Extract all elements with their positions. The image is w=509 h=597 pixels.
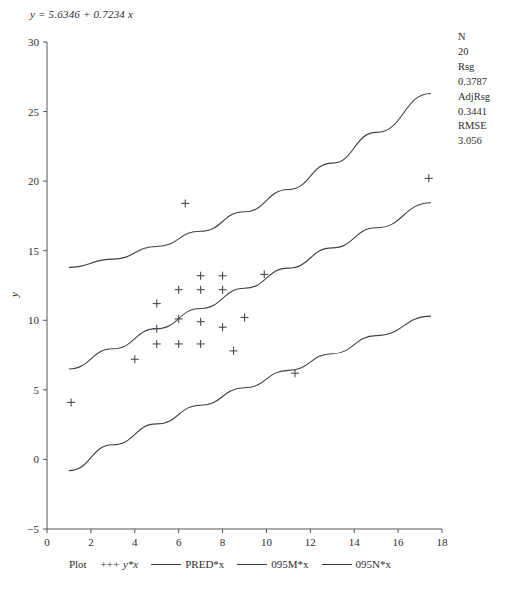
y-tick-label: 0	[34, 453, 40, 465]
x-tick-label: 10	[261, 536, 273, 548]
curve-095N-x	[69, 316, 431, 471]
x-tick-label: 8	[220, 536, 226, 548]
data-point-plus-icon	[219, 323, 227, 331]
curve-095M-x	[69, 94, 431, 268]
legend-plot-label: Plot	[69, 558, 87, 570]
data-point-plus-icon	[219, 286, 227, 294]
legend-pred-label: PRED*x	[185, 558, 224, 570]
data-point-plus-icon	[197, 340, 205, 348]
x-tick-label: 2	[88, 536, 94, 548]
legend-item-observed: +++ y*x	[100, 558, 139, 570]
y-tick-label: 20	[28, 175, 40, 187]
data-point-plus-icon	[175, 286, 183, 294]
data-point-plus-icon	[131, 355, 139, 363]
axes: −5051015202530024681012141618	[27, 36, 448, 548]
regression-chart: y = 5.6346 + 0.7234 x N 20 Rsg 0.3787 Ad…	[0, 0, 509, 597]
data-point-plus-icon	[181, 199, 189, 207]
data-point-plus-icon	[153, 300, 161, 308]
data-point-plus-icon	[197, 318, 205, 326]
fit-curves	[69, 94, 431, 471]
y-tick-label: 15	[28, 245, 40, 257]
legend-plot-text: Plot	[69, 558, 87, 570]
legend-upper-label: 095M*x	[271, 558, 308, 570]
data-points	[67, 174, 433, 406]
y-tick-label: 5	[34, 384, 40, 396]
data-point-plus-icon	[197, 272, 205, 280]
data-point-plus-icon	[425, 174, 433, 182]
line-swatch-icon	[237, 564, 267, 565]
x-tick-label: 14	[349, 536, 361, 548]
line-swatch-icon	[151, 564, 181, 565]
y-tick-label: 10	[28, 314, 40, 326]
legend-item-lower: 095N*x	[322, 558, 391, 570]
curve-PRED-x	[69, 203, 431, 369]
legend-item-pred: PRED*x	[151, 558, 224, 570]
x-tick-label: 0	[44, 536, 50, 548]
plot-area: −5051015202530024681012141618	[0, 0, 509, 597]
y-tick-label: 25	[28, 106, 40, 118]
legend-observed-label: y*x	[123, 558, 138, 570]
x-tick-label: 4	[132, 536, 138, 548]
legend-lower-label: 095N*x	[356, 558, 391, 570]
line-swatch-icon	[322, 564, 352, 565]
x-tick-label: 16	[393, 536, 405, 548]
data-point-plus-icon	[197, 286, 205, 294]
y-tick-label: 30	[28, 36, 40, 48]
x-tick-label: 12	[305, 536, 316, 548]
y-tick-label: −5	[27, 523, 39, 535]
data-point-plus-icon	[241, 314, 249, 322]
data-point-plus-icon	[67, 398, 75, 406]
x-tick-label: 6	[176, 536, 182, 548]
data-point-plus-icon	[219, 272, 227, 280]
plus-marker-icon: +++	[100, 558, 119, 570]
data-point-plus-icon	[230, 347, 238, 355]
legend-item-upper: 095M*x	[237, 558, 308, 570]
chart-legend: Plot +++ y*x PRED*x 095M*x 095N*x	[0, 558, 460, 570]
data-point-plus-icon	[153, 325, 161, 333]
data-point-plus-icon	[175, 340, 183, 348]
data-point-plus-icon	[153, 340, 161, 348]
x-tick-label: 18	[437, 536, 449, 548]
